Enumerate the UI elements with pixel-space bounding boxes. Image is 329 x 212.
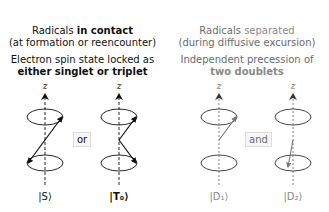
doublet-2-ket-label: |D₂⟩ — [273, 191, 313, 202]
spin-vector-down-icon — [119, 140, 136, 163]
singlet-ket-label: |S⟩ — [25, 191, 65, 202]
triplet-ket-label: |T₀⟩ — [99, 191, 139, 202]
doublet-2-cone — [275, 93, 311, 185]
or-box: or — [73, 132, 91, 147]
singlet-cone — [27, 93, 63, 185]
z-axis-label: z — [114, 81, 124, 91]
triplet-cone — [101, 93, 137, 185]
spin-vector-up-icon — [119, 117, 136, 140]
z-axis-label: z — [40, 81, 50, 91]
doublet-1-cone — [201, 93, 237, 185]
doublet-1-ket-label: |D₁⟩ — [199, 191, 239, 202]
spin-diagram — [0, 0, 329, 212]
z-axis-label: z — [288, 81, 298, 91]
z-axis-label: z — [214, 81, 224, 91]
spin-vector-icon — [219, 117, 236, 140]
axis-arrowhead-icon — [289, 93, 297, 100]
spin-vector-up-icon — [45, 117, 62, 140]
spin-vector-down-icon — [28, 140, 45, 163]
axis-arrowhead-icon — [215, 93, 223, 100]
spin-vector-icon — [288, 140, 293, 167]
and-box: and — [245, 132, 272, 147]
